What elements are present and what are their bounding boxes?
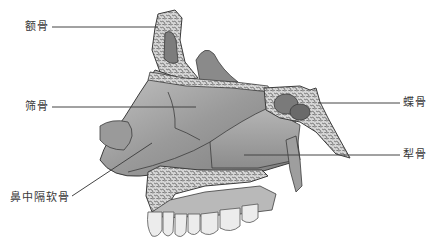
label-septal-cartilage: 鼻中隔软骨 [10,192,70,204]
nasal-tip [100,121,132,150]
nasal-bone [196,50,238,82]
nasal-bone-illustration [0,0,436,243]
sphenoid-sinus-2 [290,104,310,120]
label-ethmoid-bone: 筛骨 [25,101,49,113]
label-sphenoid-bone: 蝶骨 [403,97,427,109]
label-vomer-bone: 犁骨 [403,149,427,161]
label-frontal-bone: 额骨 [25,21,49,33]
